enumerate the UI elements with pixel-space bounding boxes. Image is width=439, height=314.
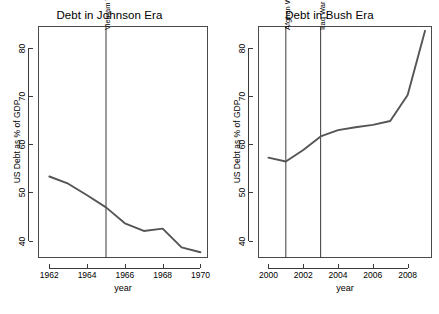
x-tick: [87, 264, 88, 268]
x-tick: [200, 264, 201, 268]
x-tick-label: 1964: [67, 271, 107, 280]
x-tick: [125, 264, 126, 268]
x-tick-label: 1966: [105, 271, 145, 280]
x-tick-label: 1968: [143, 271, 183, 280]
event-label-iraq-war: Iraq War: [319, 2, 327, 30]
y-tick: [29, 48, 33, 49]
y-tick: [29, 192, 33, 193]
y-tick: [29, 241, 33, 242]
x-tick: [163, 264, 164, 268]
y-tick-label: 40: [238, 230, 247, 252]
y-tick: [249, 96, 253, 97]
chart-panel-bush: Debt in Bush Era Afghan WarIraq War40506…: [220, 0, 439, 314]
x-tick: [338, 264, 339, 268]
y-tick: [249, 192, 253, 193]
x-axis-title: year: [93, 283, 153, 293]
x-axis-line: [49, 268, 200, 269]
x-axis-line: [268, 268, 407, 269]
x-axis-title: year: [315, 283, 375, 293]
event-label-afghan-war: Afghan War: [284, 0, 292, 30]
y-tick: [249, 48, 253, 49]
figure-canvas: Debt in Johnson Era Vietnam War405060708…: [0, 0, 439, 314]
y-axis-title: US Debt as % of GDP: [233, 82, 242, 202]
data-line: [49, 176, 200, 252]
y-tick-label: 80: [238, 37, 247, 59]
x-tick-label: 1962: [29, 271, 69, 280]
x-tick: [408, 264, 409, 268]
x-tick: [268, 264, 269, 268]
y-tick: [29, 96, 33, 97]
y-tick: [29, 144, 33, 145]
x-tick: [373, 264, 374, 268]
y-tick-label: 80: [18, 37, 27, 59]
y-tick-label: 40: [18, 230, 27, 252]
event-label-vietnam-war: Vietnam War: [104, 0, 112, 30]
x-tick-label: 2008: [388, 271, 428, 280]
y-tick: [249, 144, 253, 145]
chart-panel-johnson: Debt in Johnson Era Vietnam War405060708…: [0, 0, 219, 314]
x-tick: [303, 264, 304, 268]
y-axis-title: US Debt as % of GDP: [13, 82, 22, 202]
x-tick-label: 1970: [180, 271, 220, 280]
data-line: [268, 31, 425, 162]
y-tick: [249, 241, 253, 242]
x-tick: [49, 264, 50, 268]
